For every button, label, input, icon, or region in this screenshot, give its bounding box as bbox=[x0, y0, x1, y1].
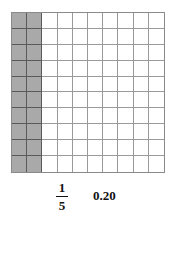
grid-cell bbox=[58, 156, 73, 172]
grid-cell bbox=[118, 29, 133, 45]
grid-cell bbox=[118, 156, 133, 172]
grid-cell-shaded bbox=[27, 140, 42, 156]
grid-cell-shaded bbox=[27, 124, 42, 140]
grid-cell bbox=[103, 140, 118, 156]
grid-cell-shaded bbox=[27, 108, 42, 124]
grid-cell bbox=[42, 108, 57, 124]
grid-cell-shaded bbox=[27, 45, 42, 61]
grid-cell bbox=[149, 77, 164, 93]
grid-cell bbox=[134, 140, 149, 156]
grid-cell bbox=[103, 61, 118, 77]
grid-cell-shaded bbox=[12, 13, 27, 29]
grid-cell bbox=[118, 61, 133, 77]
grid-cell bbox=[88, 140, 103, 156]
fraction-label: 1 5 bbox=[55, 181, 69, 212]
grid-cell bbox=[42, 45, 57, 61]
grid-cell bbox=[73, 77, 88, 93]
grid-cell bbox=[134, 77, 149, 93]
grid-cell bbox=[149, 13, 164, 29]
grid-cell bbox=[149, 61, 164, 77]
grid-cell bbox=[103, 156, 118, 172]
grid-cell bbox=[118, 124, 133, 140]
grid-cell bbox=[42, 92, 57, 108]
grid-cell bbox=[42, 29, 57, 45]
grid-cell bbox=[149, 124, 164, 140]
grid-cell bbox=[149, 156, 164, 172]
grid-cell bbox=[149, 140, 164, 156]
grid-cell bbox=[118, 13, 133, 29]
grid-cell bbox=[58, 77, 73, 93]
grid-cell bbox=[58, 124, 73, 140]
grid-cell bbox=[42, 77, 57, 93]
grid-cell bbox=[88, 108, 103, 124]
grid-cell bbox=[58, 45, 73, 61]
grid-cell-shaded bbox=[27, 29, 42, 45]
grid-cell-shaded bbox=[27, 61, 42, 77]
grid-cell bbox=[73, 156, 88, 172]
grid-cell bbox=[88, 92, 103, 108]
grid-cell bbox=[118, 140, 133, 156]
grid-cell bbox=[88, 29, 103, 45]
grid-cell bbox=[58, 140, 73, 156]
fraction-numerator: 1 bbox=[55, 181, 69, 196]
decimal-label: 0.20 bbox=[93, 188, 116, 204]
grid-cell bbox=[134, 45, 149, 61]
grid-cell bbox=[149, 92, 164, 108]
grid-cell bbox=[149, 29, 164, 45]
grid-cell bbox=[73, 124, 88, 140]
grid-cell bbox=[88, 156, 103, 172]
grid-cell bbox=[42, 124, 57, 140]
grid-cell bbox=[134, 156, 149, 172]
grid-cell bbox=[149, 45, 164, 61]
grid-cell bbox=[58, 108, 73, 124]
grid-cell-shaded bbox=[12, 45, 27, 61]
grid-cell bbox=[118, 77, 133, 93]
grid-cell bbox=[73, 45, 88, 61]
grid-cell bbox=[134, 13, 149, 29]
grid-cell-shaded bbox=[27, 77, 42, 93]
grid-cell bbox=[73, 61, 88, 77]
grid-cell-shaded bbox=[12, 140, 27, 156]
grid-cell-shaded bbox=[12, 61, 27, 77]
grid-cell bbox=[103, 124, 118, 140]
grid-cell bbox=[73, 29, 88, 45]
grid-cell-shaded bbox=[12, 92, 27, 108]
grid-cell-shaded bbox=[12, 156, 27, 172]
grid-cell bbox=[88, 77, 103, 93]
grid-cell bbox=[88, 61, 103, 77]
grid-cell-shaded bbox=[27, 92, 42, 108]
grid-cell bbox=[134, 108, 149, 124]
grid-cell bbox=[88, 13, 103, 29]
grid-cell bbox=[58, 61, 73, 77]
grid-cell bbox=[149, 108, 164, 124]
grid-cell bbox=[58, 92, 73, 108]
grid-cell bbox=[103, 108, 118, 124]
grid-cell bbox=[42, 13, 57, 29]
grid-cell bbox=[73, 108, 88, 124]
grid-cell bbox=[58, 13, 73, 29]
grid-cell-shaded bbox=[12, 77, 27, 93]
grid-cell-shaded bbox=[12, 29, 27, 45]
grid-cell bbox=[88, 124, 103, 140]
grid-cell-shaded bbox=[12, 108, 27, 124]
grid-cell-shaded bbox=[12, 124, 27, 140]
grid-cell bbox=[88, 45, 103, 61]
grid-cell bbox=[118, 108, 133, 124]
grid-cell bbox=[73, 92, 88, 108]
grid-cell-shaded bbox=[27, 13, 42, 29]
grid-cell bbox=[103, 29, 118, 45]
grid-cell bbox=[134, 61, 149, 77]
grid-cell bbox=[134, 124, 149, 140]
grid-cell bbox=[134, 29, 149, 45]
grid-cell bbox=[58, 29, 73, 45]
grid-cell bbox=[118, 45, 133, 61]
grid-cell bbox=[103, 92, 118, 108]
grid-cell bbox=[73, 140, 88, 156]
grid-cell bbox=[103, 77, 118, 93]
grid-cell bbox=[134, 92, 149, 108]
grid-cell bbox=[42, 156, 57, 172]
grid-cell bbox=[103, 45, 118, 61]
fraction-denominator: 5 bbox=[55, 197, 69, 212]
grid-cell-shaded bbox=[27, 156, 42, 172]
grid-cell bbox=[118, 92, 133, 108]
